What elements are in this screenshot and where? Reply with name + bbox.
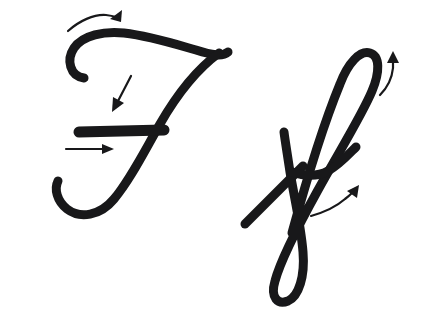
arrow-ascender-up-head-icon [387, 51, 399, 63]
glyph-lowercase-f [245, 53, 378, 303]
arrow-crossbar-right-head-icon [102, 144, 114, 154]
uppercase-f-crossbar [79, 130, 164, 132]
lowercase-f-crossbar-sweep [292, 147, 356, 175]
glyph-uppercase-f [56, 33, 228, 215]
arrow-stem-down-shaft [117, 76, 131, 103]
arrow-crossbar-right [66, 144, 114, 154]
letterform-canvas [0, 0, 421, 312]
arrow-stem-down [112, 76, 131, 112]
cursive-letter-worksheet [0, 0, 421, 312]
stroke-direction-arrows [66, 10, 399, 216]
arrow-ascender-up [380, 51, 399, 95]
arrow-top-headline [68, 10, 122, 31]
